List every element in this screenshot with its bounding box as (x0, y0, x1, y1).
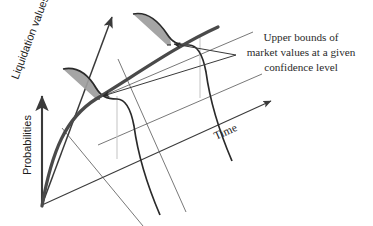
annotation-line-2: market values at a given (247, 46, 356, 58)
leader-line-to-near-bound (103, 55, 236, 96)
annotation-line-3: confidence level (264, 61, 338, 73)
diagram-canvas: Probabilities Liquidation values Time (0, 0, 373, 226)
trend-curve-group (42, 27, 218, 206)
liquidation-axis-line (42, 17, 112, 205)
annotation-text-block: Upper bounds of market values at a given… (247, 31, 356, 73)
axis-label-time: Time (212, 121, 239, 142)
leader-line-to-far-bound (174, 44, 236, 55)
expected-market-value-curve (42, 27, 218, 206)
axis-label-probabilities: Probabilities (21, 115, 33, 175)
projection-line-b (98, 74, 262, 145)
projection-line-c (118, 59, 186, 212)
annotation-line-1: Upper bounds of (263, 31, 338, 43)
axis-label-liquidation-values: Liquidation values (9, 0, 51, 81)
axis-probabilities: Probabilities (21, 96, 42, 205)
drop-lines (117, 36, 200, 159)
